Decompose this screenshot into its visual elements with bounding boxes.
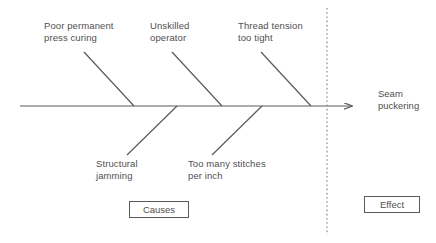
cause-label-too-many-stitches-per-inch: Too many stitches per inch bbox=[188, 158, 266, 181]
bone-line-thread-tension-too-tight bbox=[261, 52, 311, 106]
fishbone-diagram: Poor permanent press curing Unskilled op… bbox=[0, 0, 436, 243]
effect-label-seam-puckering: Seam puckering bbox=[378, 88, 419, 112]
bone-line-unskilled-operator bbox=[172, 52, 222, 106]
cause-label-unskilled-operator: Unskilled operator bbox=[150, 20, 189, 43]
cause-label-structural-jamming: Structural jamming bbox=[96, 158, 138, 181]
causes-tag-box: Causes bbox=[129, 201, 189, 218]
bone-line-poor-permanent-press-curing bbox=[84, 52, 134, 106]
bone-line-too-many-stitches-per-inch bbox=[212, 106, 262, 155]
cause-label-thread-tension-too-tight: Thread tension too tight bbox=[238, 20, 303, 43]
cause-label-poor-permanent-press-curing: Poor permanent press curing bbox=[44, 20, 114, 43]
effect-tag-box: Effect bbox=[364, 196, 420, 213]
bone-line-structural-jamming bbox=[127, 106, 177, 155]
